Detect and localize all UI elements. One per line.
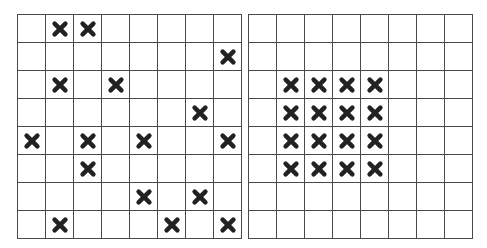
grid-cell — [305, 15, 333, 43]
x-mark-icon — [282, 76, 300, 94]
grid-cell — [389, 211, 417, 239]
x-mark-icon — [135, 132, 153, 150]
grid-cell — [277, 43, 305, 71]
grid-cell — [305, 211, 333, 239]
grid-cell — [130, 15, 158, 43]
grid-cell — [389, 183, 417, 211]
x-mark-icon — [310, 132, 328, 150]
x-mark-icon — [23, 132, 41, 150]
x-mark-icon — [366, 76, 384, 94]
grid-cell — [74, 211, 102, 239]
grid-cell — [46, 15, 74, 43]
grid-cell — [186, 43, 214, 71]
x-mark-icon — [310, 104, 328, 122]
grid-cell — [277, 71, 305, 99]
grid-cell — [305, 183, 333, 211]
grid-cell — [445, 183, 473, 211]
x-mark-icon — [219, 216, 237, 234]
x-mark-icon — [51, 20, 69, 38]
grid-cell — [417, 15, 445, 43]
x-mark-icon — [107, 76, 125, 94]
grid-cell — [333, 15, 361, 43]
x-mark-icon — [135, 188, 153, 206]
grid-cell — [102, 127, 130, 155]
grid-cell — [130, 155, 158, 183]
grid-cell — [186, 155, 214, 183]
grid-cell — [158, 183, 186, 211]
grid-cell — [102, 15, 130, 43]
grid-cell — [46, 127, 74, 155]
grid-cell — [18, 99, 46, 127]
grid-cell — [361, 155, 389, 183]
grid-cell — [361, 211, 389, 239]
grid-cell — [214, 99, 242, 127]
grid-cell — [18, 71, 46, 99]
grid-cell — [46, 211, 74, 239]
grid-cell — [361, 15, 389, 43]
grid-cell — [417, 183, 445, 211]
x-mark-icon — [79, 132, 97, 150]
grid-cell — [445, 99, 473, 127]
grid-cell — [417, 127, 445, 155]
grid-cell — [186, 71, 214, 99]
grid-cell — [249, 71, 277, 99]
grid-cell — [130, 211, 158, 239]
grid-cell — [74, 155, 102, 183]
grid-cell — [74, 99, 102, 127]
grid-cell — [102, 43, 130, 71]
grid-cell — [18, 127, 46, 155]
grid-cell — [158, 127, 186, 155]
grid-cell — [305, 99, 333, 127]
grid-cell — [389, 71, 417, 99]
grid-cell — [46, 99, 74, 127]
x-mark-icon — [338, 104, 356, 122]
grid-cell — [417, 99, 445, 127]
grid-cell — [389, 43, 417, 71]
x-mark-icon — [191, 104, 209, 122]
grid-cell — [417, 71, 445, 99]
grid-cell — [158, 15, 186, 43]
grid-cell — [417, 43, 445, 71]
grid-cell — [158, 43, 186, 71]
grid-cell — [333, 99, 361, 127]
grid-cell — [214, 127, 242, 155]
grid-cell — [130, 99, 158, 127]
grid-cell — [74, 43, 102, 71]
grid-cell — [417, 211, 445, 239]
grid-cell — [333, 127, 361, 155]
grid-cell — [249, 15, 277, 43]
left-grid — [17, 14, 242, 239]
grid-cell — [389, 99, 417, 127]
x-mark-icon — [51, 76, 69, 94]
grid-cell — [277, 127, 305, 155]
grid-cell — [389, 127, 417, 155]
x-mark-icon — [366, 160, 384, 178]
grid-cell — [18, 211, 46, 239]
grid-cell — [277, 99, 305, 127]
grid-cell — [305, 155, 333, 183]
x-mark-icon — [79, 160, 97, 178]
grid-cell — [445, 43, 473, 71]
grid-cell — [361, 183, 389, 211]
grid-cell — [18, 183, 46, 211]
grid-cell — [249, 99, 277, 127]
grid-cell — [18, 43, 46, 71]
grid-cell — [18, 15, 46, 43]
x-mark-icon — [282, 104, 300, 122]
x-mark-icon — [51, 216, 69, 234]
grid-cell — [158, 211, 186, 239]
grid-cell — [102, 155, 130, 183]
grid-cell — [333, 183, 361, 211]
grid-cell — [74, 71, 102, 99]
x-mark-icon — [310, 160, 328, 178]
grid-cell — [102, 211, 130, 239]
x-mark-icon — [163, 216, 181, 234]
grid-cell — [186, 127, 214, 155]
grid-cell — [214, 43, 242, 71]
grid-cell — [158, 155, 186, 183]
grid-cell — [249, 211, 277, 239]
x-mark-icon — [338, 76, 356, 94]
grid-cell — [277, 15, 305, 43]
grid-cell — [102, 183, 130, 211]
x-mark-icon — [282, 160, 300, 178]
